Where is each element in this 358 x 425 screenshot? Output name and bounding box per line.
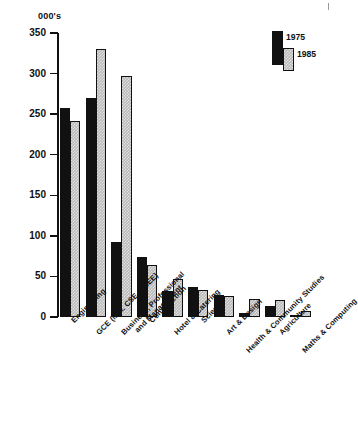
y-tick-50	[50, 276, 58, 277]
y-tick-200	[50, 154, 58, 155]
bar-group	[188, 33, 208, 317]
bar	[60, 108, 70, 317]
legend-label-1985: 1985	[297, 49, 316, 59]
bar-group	[265, 33, 285, 317]
y-tick-label-300: 300	[16, 68, 46, 79]
y-tick-350	[50, 32, 58, 33]
y-tick-label-150: 150	[16, 189, 46, 200]
bar	[224, 296, 234, 317]
y-tick-0	[50, 316, 58, 317]
y-tick-label-100: 100	[16, 230, 46, 241]
bar-group	[111, 33, 131, 317]
y-tick-label-250: 250	[16, 108, 46, 119]
bar	[70, 121, 80, 317]
scan-artifact	[328, 3, 329, 10]
y-tick-150	[50, 195, 58, 196]
bar	[265, 306, 275, 317]
legend-swatch-1975	[272, 31, 283, 65]
legend-label-1975: 1975	[286, 32, 305, 42]
y-tick-label-200: 200	[16, 149, 46, 160]
y-tick-100	[50, 235, 58, 236]
bar	[96, 49, 106, 317]
legend: 1975 1985	[272, 31, 334, 71]
bar-group	[290, 33, 310, 317]
bar	[121, 76, 131, 317]
bar-group	[239, 33, 259, 317]
bar-group	[214, 33, 234, 317]
y-tick-label-50: 50	[16, 270, 46, 281]
plot-area	[58, 33, 328, 317]
bar-group	[60, 33, 80, 317]
legend-swatch-1985	[283, 48, 294, 71]
y-tick-300	[50, 73, 58, 74]
y-tick-250	[50, 113, 58, 114]
y-tick-label-0: 0	[16, 311, 46, 322]
y-axis-unit-caption: 000's	[38, 11, 61, 21]
bar-group	[86, 33, 106, 317]
bar	[86, 98, 96, 317]
y-tick-label-350: 350	[16, 27, 46, 38]
